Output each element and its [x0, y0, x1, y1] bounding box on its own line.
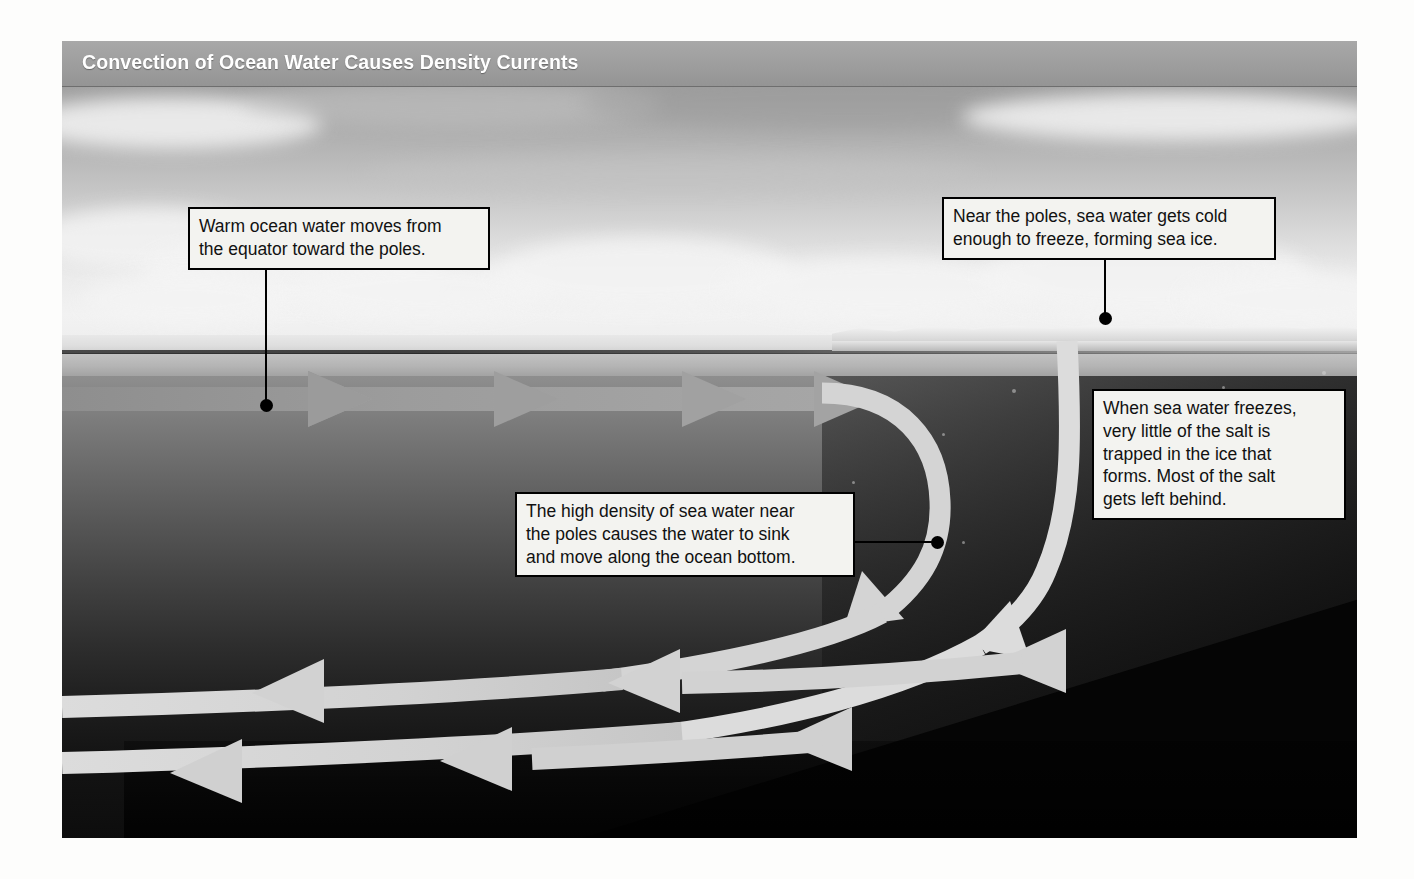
- figure-title: Convection of Ocean Water Causes Density…: [82, 50, 579, 74]
- figure-page: Warm ocean water moves from the equator …: [0, 0, 1414, 879]
- title-band: Convection of Ocean Water Causes Density…: [62, 41, 1357, 87]
- leader-dot-warm-surface-flow: [260, 399, 273, 412]
- diagram-figure: Warm ocean water moves from the equator …: [62, 41, 1357, 838]
- leader-dot-dense-water-sinks: [931, 536, 944, 549]
- callout-salt-left-behind: When sea water freezes, very little of t…: [1092, 389, 1346, 520]
- callout-sea-ice-formation: Near the poles, sea water gets cold enou…: [942, 197, 1276, 260]
- callout-warm-surface-flow: Warm ocean water moves from the equator …: [188, 207, 490, 270]
- leader-line-warm-surface-flow: [265, 268, 267, 405]
- leader-line-sea-ice-formation: [1104, 258, 1106, 318]
- flow-deep-current-upper: [62, 629, 1066, 723]
- leader-dot-sea-ice-formation: [1099, 312, 1112, 325]
- callout-dense-water-sinks: The high density of sea water near the p…: [515, 492, 855, 577]
- flow-surface-current: [62, 371, 878, 427]
